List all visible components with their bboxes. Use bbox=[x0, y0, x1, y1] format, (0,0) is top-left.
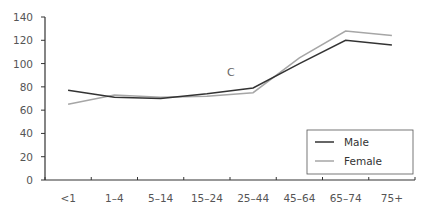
y-tick-label: 100 bbox=[13, 58, 33, 70]
y-tick-label: 140 bbox=[13, 11, 33, 23]
y-tick-label: 0 bbox=[26, 174, 33, 186]
y-tick-label: 60 bbox=[20, 104, 33, 116]
y-tick-group: 020406080100120140 bbox=[13, 11, 45, 186]
x-tick-label: 65–74 bbox=[330, 192, 362, 204]
annotation-label: C bbox=[227, 66, 235, 79]
x-tick-label: 45–64 bbox=[283, 192, 315, 204]
legend-female-label: Female bbox=[344, 155, 382, 167]
y-tick-label: 120 bbox=[13, 34, 33, 46]
y-tick-label: 20 bbox=[20, 151, 33, 163]
x-tick-label: 75+ bbox=[381, 192, 403, 204]
x-tick-label: <1 bbox=[60, 192, 75, 204]
x-tick-label: 5–14 bbox=[148, 192, 174, 204]
y-tick-label: 40 bbox=[20, 127, 33, 139]
legend-male-label: Male bbox=[344, 136, 369, 148]
y-tick-label: 80 bbox=[20, 81, 33, 93]
x-tick-label: 15–24 bbox=[191, 192, 223, 204]
x-tick-group: <11–45–1415–2425–4445–6465–7475+ bbox=[45, 177, 415, 204]
x-tick-label: 1–4 bbox=[105, 192, 124, 204]
legend: Male Female bbox=[307, 130, 413, 174]
x-tick-label: 25–44 bbox=[237, 192, 269, 204]
line-chart: 020406080100120140 <11–45–1415–2425–4445… bbox=[0, 0, 426, 216]
